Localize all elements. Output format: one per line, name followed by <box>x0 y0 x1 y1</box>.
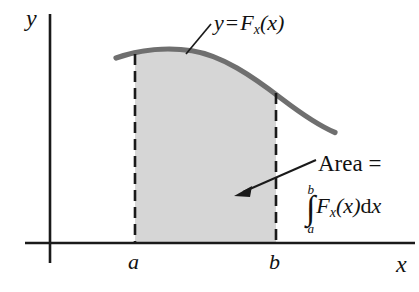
diagram-canvas <box>0 0 419 292</box>
integral-operator: b ∫ a <box>306 183 315 231</box>
curve-label-equals: = <box>224 10 240 35</box>
integral-lower-limit: a <box>307 222 314 232</box>
differential-variable: x <box>371 193 381 218</box>
x-tick-label-b: b <box>269 251 280 273</box>
integrand: Fx(x)dx <box>316 195 381 219</box>
integral-expression: b ∫ a Fx(x)dx <box>306 183 381 231</box>
differential-d: d <box>360 193 371 218</box>
y-axis-label: y <box>26 6 37 30</box>
curve-label-argument: (x) <box>260 10 284 35</box>
integrand-function: F <box>316 193 329 218</box>
area-label: Area = <box>318 152 381 175</box>
integral-sign: ∫ <box>306 193 315 222</box>
curve-equation-label: y=Fx(x) <box>214 12 284 36</box>
curve-label-y: y <box>214 10 224 35</box>
curve-label-function: F <box>240 10 253 35</box>
x-axis-label: x <box>396 252 407 276</box>
integrand-argument: (x) <box>336 193 360 218</box>
figure-area-under-curve: y x a b y=Fx(x) Area = b ∫ a Fx(x)dx <box>0 0 419 292</box>
x-tick-label-a: a <box>128 251 139 273</box>
